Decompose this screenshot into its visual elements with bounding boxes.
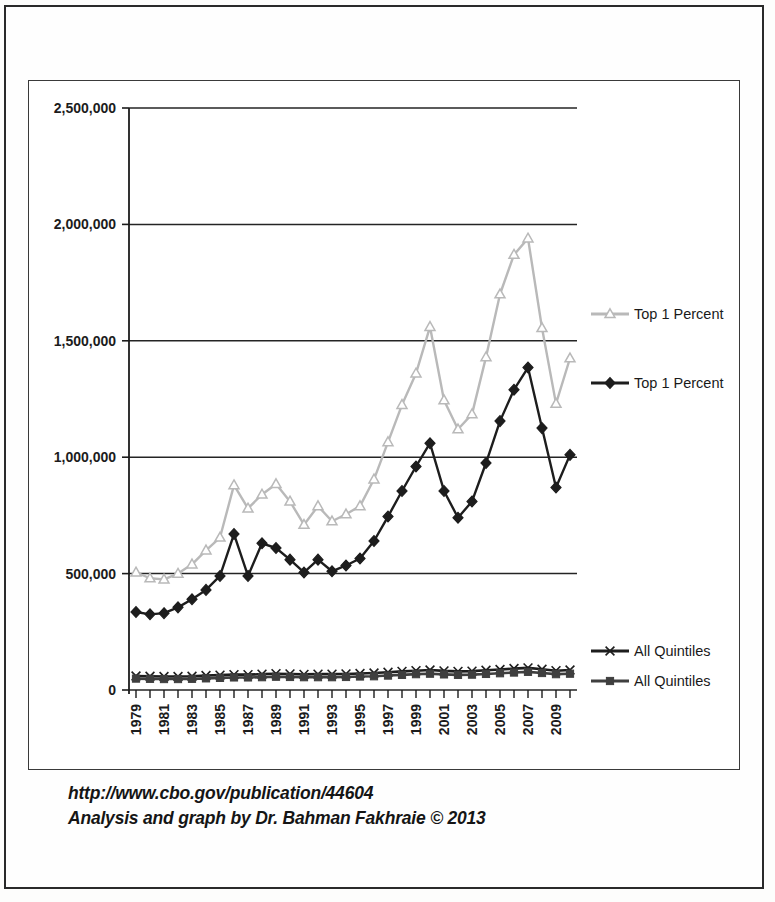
- data-point-square-marker: [300, 674, 307, 681]
- x-tick-label: 1993: [324, 704, 340, 735]
- legend-item-4[interactable]: All Quintiles: [591, 673, 711, 689]
- data-point-diamond-marker: [257, 538, 267, 549]
- data-point-diamond-marker: [565, 449, 575, 460]
- legend-label: Top 1 Percent: [634, 375, 723, 391]
- series-line: [136, 368, 570, 615]
- data-point-triangle-marker: [551, 398, 561, 407]
- data-point-triangle-marker: [397, 400, 407, 409]
- chart-container: 0500,0001,000,0001,500,0002,000,0002,500…: [28, 80, 740, 770]
- data-point-square-marker: [174, 675, 181, 682]
- attribution-line: Analysis and graph by Dr. Bahman Fakhrai…: [68, 806, 708, 831]
- data-point-diamond-marker: [131, 607, 141, 618]
- y-tick-label: 500,000: [65, 566, 116, 582]
- data-point-square-marker: [272, 673, 279, 680]
- x-tick-label: 2005: [492, 704, 508, 735]
- data-point-square-marker: [496, 670, 503, 677]
- data-point-diamond-marker: [341, 560, 351, 571]
- x-axis-ticks: 1979198119831985198719891991199319951997…: [128, 690, 570, 735]
- chart-legend: Top 1 PercentTop 1 PercentAll QuintilesA…: [591, 306, 723, 689]
- y-tick-label: 1,500,000: [54, 333, 116, 349]
- data-point-square-marker: [230, 674, 237, 681]
- data-point-triangle-marker: [495, 289, 505, 298]
- data-point-square-marker: [314, 674, 321, 681]
- x-tick-label: 2007: [520, 704, 536, 735]
- data-point-diamond-marker: [243, 571, 253, 582]
- x-tick-label: 1981: [156, 704, 172, 735]
- data-point-triangle-marker: [313, 501, 323, 510]
- data-point-diamond-marker: [173, 602, 183, 613]
- data-point-diamond-marker: [439, 486, 449, 497]
- data-point-square-marker: [412, 671, 419, 678]
- x-tick-label: 2009: [548, 704, 564, 735]
- data-point-triangle-marker: [411, 368, 421, 377]
- data-point-square-marker: [552, 671, 559, 678]
- legend-label: All Quintiles: [634, 643, 711, 659]
- x-tick-label: 1995: [352, 704, 368, 735]
- y-tick-label: 2,500,000: [54, 100, 116, 116]
- data-point-square-marker: [244, 674, 251, 681]
- data-point-triangle-marker: [425, 322, 435, 331]
- data-point-square-marker: [146, 675, 153, 682]
- x-tick-label: 1987: [240, 704, 256, 735]
- data-point-triangle-marker: [173, 568, 183, 577]
- data-point-square-marker: [606, 677, 613, 684]
- data-point-triangle-marker: [467, 409, 477, 418]
- x-tick-label: 1979: [128, 704, 144, 735]
- data-point-diamond-marker: [537, 423, 547, 434]
- data-point-triangle-marker: [565, 353, 575, 362]
- data-point-triangle-marker: [523, 233, 533, 242]
- data-point-triangle-marker: [383, 437, 393, 446]
- data-point-square-marker: [384, 672, 391, 679]
- data-point-triangle-marker: [215, 532, 225, 541]
- data-point-square-marker: [342, 673, 349, 680]
- data-point-diamond-marker: [605, 378, 615, 389]
- data-point-triangle-marker: [131, 567, 141, 576]
- data-point-triangle-marker: [355, 501, 365, 510]
- x-tick-label: 1991: [296, 704, 312, 735]
- data-point-square-marker: [202, 675, 209, 682]
- series-1: [131, 233, 575, 583]
- scanned-page-frame: 0500,0001,000,0001,500,0002,000,0002,500…: [4, 5, 764, 889]
- data-point-diamond-marker: [229, 529, 239, 540]
- data-point-square-marker: [286, 673, 293, 680]
- x-tick-label: 1989: [268, 704, 284, 735]
- x-tick-label: 2001: [436, 704, 452, 735]
- x-tick-label: 1983: [184, 704, 200, 735]
- data-point-triangle-marker: [229, 480, 239, 489]
- data-point-diamond-marker: [481, 458, 491, 469]
- y-axis-ticks: 0500,0001,000,0001,500,0002,000,0002,500…: [54, 100, 129, 698]
- data-point-square-marker: [426, 670, 433, 677]
- x-tick-label: 2003: [464, 704, 480, 735]
- data-point-square-marker: [468, 671, 475, 678]
- y-tick-label: 0: [108, 682, 116, 698]
- legend-item-1[interactable]: Top 1 Percent: [591, 306, 723, 322]
- data-point-triangle-marker: [271, 479, 281, 488]
- y-tick-label: 1,000,000: [54, 449, 116, 465]
- legend-label: Top 1 Percent: [634, 306, 723, 322]
- data-point-diamond-marker: [145, 609, 155, 620]
- plot-area: 0500,0001,000,0001,500,0002,000,0002,500…: [29, 81, 739, 769]
- data-point-triangle-marker: [439, 395, 449, 404]
- legend-label: All Quintiles: [634, 673, 711, 689]
- data-point-triangle-marker: [481, 352, 491, 361]
- data-point-square-marker: [538, 669, 545, 676]
- source-url: http://www.cbo.gov/publication/44604: [68, 781, 708, 806]
- data-point-square-marker: [328, 674, 335, 681]
- data-point-diamond-marker: [495, 416, 505, 427]
- data-point-square-marker: [454, 671, 461, 678]
- data-point-square-marker: [258, 674, 265, 681]
- data-point-square-marker: [356, 673, 363, 680]
- caption-block: http://www.cbo.gov/publication/44604 Ana…: [68, 781, 708, 832]
- data-point-diamond-marker: [187, 594, 197, 605]
- x-tick-label: 1997: [380, 704, 396, 735]
- data-point-diamond-marker: [159, 608, 169, 619]
- legend-item-3[interactable]: All Quintiles: [591, 643, 711, 659]
- data-point-square-marker: [440, 671, 447, 678]
- x-tick-label: 1985: [212, 704, 228, 735]
- data-point-square-marker: [398, 671, 405, 678]
- data-point-square-marker: [132, 675, 139, 682]
- data-point-square-marker: [482, 670, 489, 677]
- legend-item-2[interactable]: Top 1 Percent: [591, 375, 723, 391]
- data-point-triangle-marker: [369, 474, 379, 483]
- data-point-diamond-marker: [551, 482, 561, 493]
